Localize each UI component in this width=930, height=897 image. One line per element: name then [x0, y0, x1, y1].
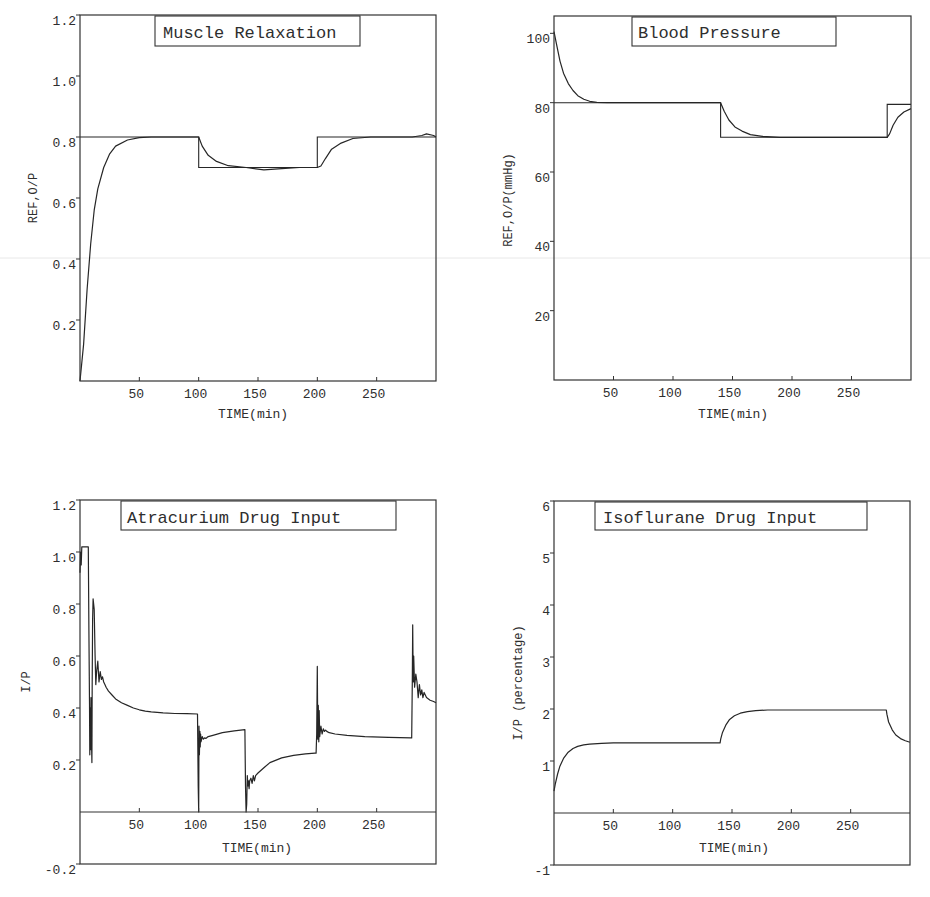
- x-tick-label: 250: [837, 386, 860, 401]
- y-tick-label: 0.8: [53, 136, 76, 151]
- chart-atracurium-drug-input: 50100150200250-0.20.20.40.60.81.01.2 Atr…: [20, 499, 436, 878]
- x-tick-label: 150: [718, 386, 741, 401]
- y-tick-label: 0.8: [53, 603, 76, 618]
- y-tick-label: -0.2: [45, 863, 76, 878]
- y-tick-label: 1.0: [53, 551, 76, 566]
- axis-ticks: 50100150200250-1123456: [534, 500, 910, 879]
- y-tick-label: 1.2: [53, 14, 76, 29]
- x-tick-label: 100: [658, 819, 681, 834]
- x-tick-label: 50: [129, 818, 145, 833]
- output-line: [80, 547, 436, 812]
- x-tick-label: 150: [243, 387, 266, 402]
- output-line: [80, 134, 436, 381]
- x-axis-label: TIME(min): [698, 407, 768, 422]
- y-axis-label: REF,O/P(mmHg): [502, 153, 516, 247]
- y-tick-label: 80: [534, 102, 550, 117]
- x-tick-label: 250: [362, 818, 385, 833]
- chart-title: Blood Pressure: [638, 24, 781, 43]
- axis-ticks: 501001502002500.20.40.60.81.01.2: [53, 14, 386, 402]
- chart-title: Isoflurane Drug Input: [603, 509, 817, 528]
- plot-frame: [554, 16, 911, 380]
- figure: 501001502002500.20.40.60.81.01.2 Muscle …: [0, 0, 930, 897]
- x-tick-label: 200: [303, 818, 326, 833]
- x-tick-label: 200: [303, 387, 326, 402]
- x-tick-label: 250: [362, 387, 385, 402]
- x-tick-label: 50: [603, 819, 619, 834]
- y-tick-label: 0.4: [53, 707, 77, 722]
- x-axis-label: TIME(min): [218, 407, 288, 422]
- output-line: [554, 710, 910, 791]
- y-tick-label: 100: [527, 32, 550, 47]
- plot-lines: [554, 710, 910, 791]
- y-tick-label: 1.2: [53, 499, 76, 514]
- reference-line: [554, 103, 911, 138]
- output-line: [554, 32, 911, 138]
- axis-ticks: 50100150200250-0.20.20.40.60.81.01.2: [45, 499, 436, 878]
- y-tick-label: 40: [534, 240, 550, 255]
- chart-isoflurane-drug-input: 50100150200250-1123456 Isoflurane Drug I…: [512, 500, 910, 879]
- y-tick-label: 6: [542, 500, 550, 515]
- reference-line: [80, 137, 436, 168]
- chart-muscle-relaxation: 501001502002500.20.40.60.81.01.2 Muscle …: [27, 14, 436, 422]
- axis-ticks: 5010015020025020406080100: [527, 32, 861, 401]
- plot-lines: [554, 32, 911, 138]
- x-tick-label: 50: [129, 387, 145, 402]
- y-tick-label: 0.4: [53, 258, 77, 273]
- y-tick-label: 60: [534, 171, 550, 186]
- x-tick-label: 250: [836, 819, 859, 834]
- x-tick-label: 150: [243, 818, 266, 833]
- x-tick-label: 100: [184, 818, 207, 833]
- x-tick-label: 50: [603, 386, 619, 401]
- y-tick-label: 1.0: [53, 75, 76, 90]
- x-axis-label: TIME(min): [699, 841, 769, 856]
- y-tick-label: 0.6: [53, 655, 76, 670]
- y-tick-label: 20: [534, 310, 550, 325]
- y-axis-label: I/P (percentage): [512, 625, 526, 740]
- y-tick-label: 1: [542, 760, 550, 775]
- x-tick-label: 200: [777, 819, 800, 834]
- y-tick-label: 0.2: [53, 759, 76, 774]
- y-tick-label: 0.2: [53, 319, 76, 334]
- y-tick-label: 4: [542, 604, 550, 619]
- x-tick-label: 100: [658, 386, 681, 401]
- y-axis-label: REF,O/P: [27, 173, 41, 223]
- y-tick-label: 5: [542, 552, 550, 567]
- chart-blood-pressure: 5010015020025020406080100 Blood Pressure…: [502, 16, 911, 422]
- y-tick-label: 2: [542, 708, 550, 723]
- x-tick-label: 150: [717, 819, 740, 834]
- x-tick-label: 200: [777, 386, 800, 401]
- chart-canvas: 501001502002500.20.40.60.81.01.2 Muscle …: [0, 0, 930, 897]
- chart-title: Atracurium Drug Input: [127, 509, 341, 528]
- x-axis-label: TIME(min): [222, 841, 292, 856]
- y-tick-label: 0.6: [53, 197, 76, 212]
- y-axis-label: I/P: [20, 671, 34, 693]
- plot-lines: [80, 547, 436, 812]
- plot-frame: [80, 15, 436, 381]
- x-tick-label: 100: [184, 387, 207, 402]
- plot-lines: [80, 134, 436, 381]
- y-tick-label: 3: [542, 656, 550, 671]
- chart-title: Muscle Relaxation: [163, 24, 336, 43]
- y-tick-label: -1: [534, 864, 550, 879]
